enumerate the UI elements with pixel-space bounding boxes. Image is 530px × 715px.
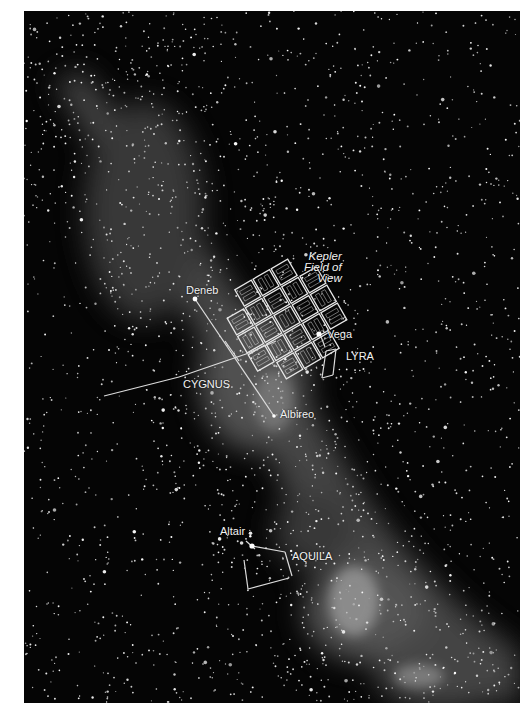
kepler-ccd-module <box>303 314 329 340</box>
kepler-ccd-module <box>310 285 336 311</box>
deneb-label: Deneb <box>186 284 218 296</box>
milky-way-photo: Kepler Field of View Deneb Vega LYRA CYG… <box>24 11 520 703</box>
vega-star <box>316 331 321 336</box>
kepler-fov-label: Kepler Field of View <box>304 251 342 284</box>
sky-canvas <box>24 11 520 703</box>
albireo-star <box>272 414 276 418</box>
cygnus-label: CYGNUS <box>183 378 230 390</box>
lyra-label: LYRA <box>346 350 374 362</box>
altair-star <box>249 543 254 548</box>
altair-label: Altair <box>220 525 245 537</box>
aquila-label: AQUILA <box>292 550 332 562</box>
kepler-label-line3: View <box>304 273 342 284</box>
albireo-label: Albireo <box>280 408 314 420</box>
kepler-ccd-module <box>271 259 297 285</box>
cropped-caption <box>0 708 530 715</box>
kepler-ccd-module <box>292 296 318 322</box>
deneb-star <box>193 297 198 302</box>
vega-label: Vega <box>327 328 352 340</box>
